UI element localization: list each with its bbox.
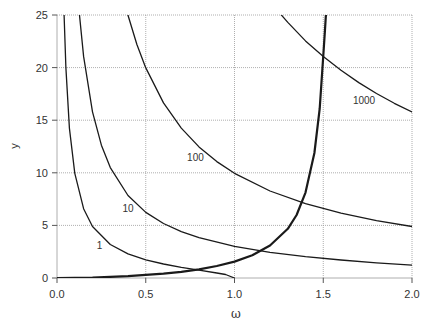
y-tick-label: 25 xyxy=(36,9,48,21)
y-axis-title: y xyxy=(8,143,20,149)
curve-label: 10 xyxy=(122,203,134,214)
y-tick-label: 15 xyxy=(36,114,48,126)
x-axis-title: ω xyxy=(231,307,241,321)
grid-lines xyxy=(57,15,412,278)
curve-1 xyxy=(64,15,234,278)
x-tick-label: 0.0 xyxy=(49,288,64,300)
x-tick-label: 0.5 xyxy=(138,288,153,300)
curve-100 xyxy=(128,15,412,226)
curve--tan- xyxy=(57,12,326,278)
y-tick-label: 5 xyxy=(42,219,48,231)
curve-label: 100 xyxy=(187,152,204,163)
curve-label: 1 xyxy=(97,240,103,251)
curve-1000 xyxy=(281,15,412,112)
x-tick-label: 1.0 xyxy=(227,288,242,300)
curve-10 xyxy=(79,14,412,265)
x-tick-label: 2.0 xyxy=(404,288,419,300)
y-tick-label: 20 xyxy=(36,62,48,74)
y-tick-label: 10 xyxy=(36,167,48,179)
line-chart: 0.00.51.01.52.00510152025 1101001000 ω y xyxy=(0,0,427,332)
chart-container: 0.00.51.01.52.00510152025 1101001000 ω y xyxy=(0,0,427,332)
y-tick-label: 0 xyxy=(42,272,48,284)
axes: 0.00.51.01.52.00510152025 xyxy=(36,9,420,300)
curve-label: 1000 xyxy=(353,95,376,106)
x-tick-label: 1.5 xyxy=(316,288,331,300)
